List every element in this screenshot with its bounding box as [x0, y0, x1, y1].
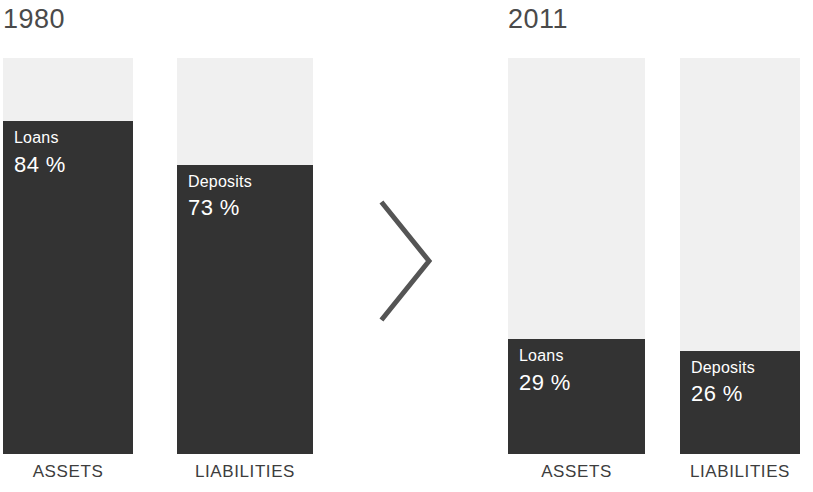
bar-label-2011-liabilities: Deposits 26 %	[691, 359, 755, 407]
bar-1980-assets: Loans 84 %	[3, 58, 133, 454]
bar-value: 29 %	[519, 370, 571, 395]
category-label-2011-liabilities: LIABILITIES	[672, 462, 808, 482]
bar-1980-liabilities: Deposits 73 %	[177, 58, 313, 454]
chevron-right-icon	[366, 196, 446, 326]
bar-label-2011-assets: Loans 29 %	[519, 347, 571, 395]
bar-fill-1980-assets: Loans 84 %	[3, 121, 133, 454]
bar-value: 26 %	[691, 381, 755, 406]
year-label-right: 2011	[508, 6, 568, 33]
bar-fill-1980-liabilities: Deposits 73 %	[177, 165, 313, 454]
bar-2011-assets: Loans 29 %	[508, 58, 645, 454]
bar-fill-2011-liabilities: Deposits 26 %	[680, 351, 800, 454]
year-label-left: 1980	[3, 6, 65, 33]
bar-fill-2011-assets: Loans 29 %	[508, 339, 645, 454]
chart-canvas: 1980 2011 Loans 84 % Deposits 73 % Loans…	[0, 0, 813, 492]
bar-label-1980-liabilities: Deposits 73 %	[188, 173, 252, 221]
bar-series-name: Deposits	[188, 173, 252, 191]
category-label-1980-liabilities: LIABILITIES	[170, 462, 320, 482]
bar-series-name: Loans	[519, 347, 571, 365]
bar-series-name: Loans	[14, 129, 66, 147]
bar-series-name: Deposits	[691, 359, 755, 377]
bar-value: 73 %	[188, 195, 252, 220]
bar-value: 84 %	[14, 152, 66, 177]
bar-2011-liabilities: Deposits 26 %	[680, 58, 800, 454]
category-label-2011-assets: ASSETS	[508, 462, 645, 482]
category-label-1980-assets: ASSETS	[3, 462, 133, 482]
bar-label-1980-assets: Loans 84 %	[14, 129, 66, 177]
